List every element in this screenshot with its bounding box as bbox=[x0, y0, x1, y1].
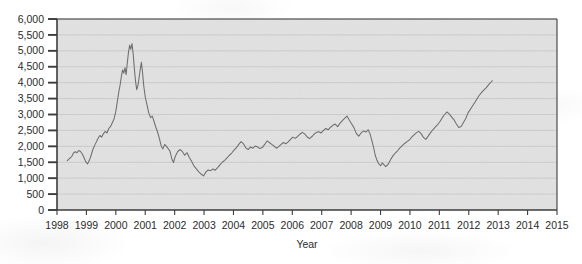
y-axis-tick-label: 4,500 bbox=[18, 60, 44, 72]
x-axis-tick-label: 2007 bbox=[310, 219, 334, 231]
y-axis: 05001,0001,5002,0002,5003,0003,5004,0004… bbox=[18, 13, 57, 216]
x-axis-tick-label: 2012 bbox=[457, 219, 481, 231]
y-axis-tick-label: 3,000 bbox=[18, 108, 44, 120]
y-axis-tick-label: 5,500 bbox=[18, 29, 44, 41]
x-axis-tick-label: 2000 bbox=[104, 219, 128, 231]
x-axis-tick-label: 2010 bbox=[398, 219, 422, 231]
y-axis-tick-label: 1,000 bbox=[18, 172, 44, 184]
x-axis-tick-label: 2004 bbox=[222, 219, 246, 231]
x-axis-tick-label: 2001 bbox=[134, 219, 158, 231]
chart-figure: 05001,0001,5002,0002,5003,0003,5004,0004… bbox=[0, 0, 582, 264]
y-axis-tick-label: 0 bbox=[38, 204, 44, 216]
x-axis-tick-label: 2014 bbox=[516, 219, 540, 231]
x-axis-tick-label: 2009 bbox=[369, 219, 393, 231]
x-axis-tick-label: 2005 bbox=[251, 219, 275, 231]
x-axis-tick-label: 2008 bbox=[339, 219, 363, 231]
x-axis-tick-label: 2003 bbox=[192, 219, 216, 231]
x-axis-tick-label: 2015 bbox=[545, 219, 569, 231]
x-axis-title: Year bbox=[296, 238, 318, 250]
x-axis-tick-label: 2002 bbox=[163, 219, 187, 231]
y-axis-tick-label: 2,000 bbox=[18, 140, 44, 152]
x-axis-tick-label: 2006 bbox=[281, 219, 305, 231]
y-axis-tick-label: 1,500 bbox=[18, 156, 44, 168]
y-axis-tick-label: 4,000 bbox=[18, 76, 44, 88]
x-axis-tick-label: 2013 bbox=[486, 219, 510, 231]
x-axis-tick-label: 1999 bbox=[75, 219, 99, 231]
y-axis-tick-label: 500 bbox=[26, 188, 44, 200]
x-axis: 1998199920002001200220032004200520062007… bbox=[45, 210, 569, 231]
y-axis-tick-label: 3,500 bbox=[18, 92, 44, 104]
y-axis-tick-label: 2,500 bbox=[18, 124, 44, 136]
y-axis-tick-label: 6,000 bbox=[18, 13, 44, 25]
x-axis-tick-label: 2011 bbox=[428, 219, 451, 231]
x-axis-tick-label: 1998 bbox=[45, 219, 69, 231]
y-axis-tick-label: 5,000 bbox=[18, 44, 44, 56]
line-chart: 05001,0001,5002,0002,5003,0003,5004,0004… bbox=[0, 0, 582, 264]
